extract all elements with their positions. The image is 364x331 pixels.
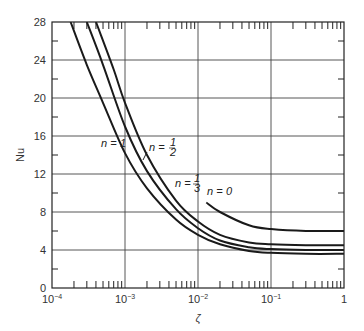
x-tick-1e-4: 10−4: [42, 293, 62, 305]
svg-text:2: 2: [169, 146, 176, 158]
y-tick-4: 4: [40, 244, 46, 256]
y-tick-24: 24: [34, 54, 46, 66]
svg-text:n =: n =: [101, 137, 117, 149]
svg-text:n =: n =: [207, 185, 223, 197]
nusselt-chart: 0 4 8 12 16 20 24 28 10−4 10−3 10−2 10−1…: [0, 0, 364, 331]
svg-text:0: 0: [226, 185, 233, 197]
curve-label-n-third: n = 1 3: [175, 172, 201, 194]
curve-label-n0: n = 0: [207, 185, 233, 197]
x-tick-1: 1: [341, 293, 347, 305]
y-axis-label: Nu: [14, 148, 26, 162]
x-tick-1e-3: 10−3: [115, 293, 135, 305]
y-tick-12: 12: [34, 168, 46, 180]
y-tick-16: 16: [34, 130, 46, 142]
curve-label-n1: n = 1: [101, 137, 126, 149]
y-tick-28: 28: [34, 16, 46, 28]
curve-n-0: [206, 203, 344, 232]
svg-text:3: 3: [194, 182, 201, 194]
y-tick-labels: 0 4 8 12 16 20 24 28: [34, 16, 46, 294]
x-tick-1e-2: 10−2: [188, 293, 208, 305]
svg-text:n =: n =: [149, 141, 165, 153]
svg-text:n =: n =: [175, 177, 191, 189]
y-tick-20: 20: [34, 92, 46, 104]
grid-lines: [52, 22, 344, 288]
y-tick-8: 8: [40, 206, 46, 218]
x-axis-label: ζ: [195, 312, 201, 325]
svg-text:1: 1: [120, 137, 126, 149]
x-tick-1e-1: 10−1: [261, 293, 281, 305]
x-tick-labels: 10−4 10−3 10−2 10−1 1: [42, 293, 347, 305]
